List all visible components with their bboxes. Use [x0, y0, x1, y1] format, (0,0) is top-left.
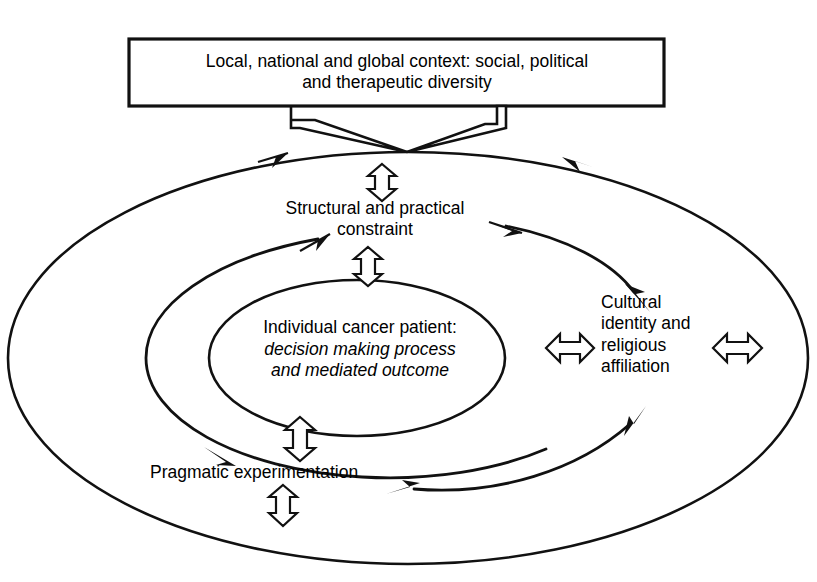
node-label-individual-cancer-patient: Individual cancer patient:	[225, 317, 495, 338]
node-label-structural-constraint: Structural and practical constraint	[262, 198, 488, 241]
double-arrow-vertical-pragmatic-upper	[285, 417, 315, 461]
middle-ellipse-arc-upper-right	[506, 226, 634, 292]
node-label-cultural-identity: Cultural identity and religious affiliat…	[601, 292, 721, 377]
box-connector-right	[407, 106, 506, 152]
diagram-canvas: Local, national and global context: soci…	[0, 0, 817, 582]
lower-right-arc-arrowhead	[624, 406, 646, 436]
double-arrow-vertical-pragmatic-lower	[269, 485, 297, 526]
double-arrow-horizontal-left	[546, 334, 594, 362]
box-connector-left	[291, 106, 407, 152]
node-label-pragmatic-experimentation: Pragmatic experimentation	[150, 462, 400, 483]
context-box-label: Local, national and global context: soci…	[136, 51, 658, 94]
double-arrow-vertical-top	[368, 164, 396, 201]
node-label-decision-making-process: decision making process and mediated out…	[218, 339, 502, 382]
